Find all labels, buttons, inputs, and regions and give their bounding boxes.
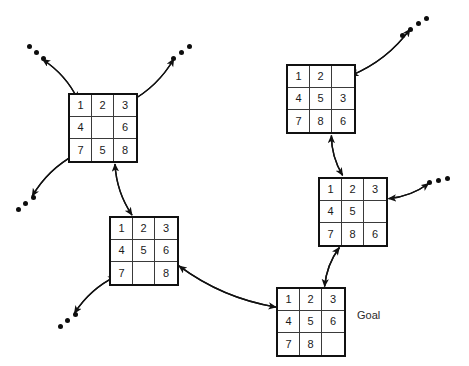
puzzle-cell: 4 xyxy=(70,117,92,139)
puzzle-cell: 6 xyxy=(332,110,354,132)
puzzle-cell: 8 xyxy=(342,223,364,245)
ellipsis-top-left-dot xyxy=(34,50,39,55)
edge-goal-to-middle-left xyxy=(179,266,276,307)
puzzle-cell: 8 xyxy=(155,262,177,284)
diagram-canvas: 1234675812345678124537861234578612345678… xyxy=(0,0,469,366)
puzzle-cell xyxy=(322,333,344,355)
puzzle-cell: 3 xyxy=(155,218,177,240)
puzzle-cell: 5 xyxy=(310,88,332,110)
ellipsis-top-left-right-dot xyxy=(171,56,176,61)
puzzle-cell: 1 xyxy=(111,218,133,240)
edge-middle-right-to-goal xyxy=(325,248,340,287)
puzzle-cell: 1 xyxy=(288,66,310,88)
puzzle-grid-top-left: 12346758 xyxy=(68,93,138,163)
puzzle-cell: 5 xyxy=(300,311,322,333)
ellipsis-top-left-dot xyxy=(41,56,46,61)
puzzle-cell: 2 xyxy=(300,289,322,311)
puzzle-cell: 1 xyxy=(278,289,300,311)
ellipsis-top-right-dot xyxy=(416,21,421,26)
puzzle-cell: 7 xyxy=(278,333,300,355)
ellipsis-right-dot xyxy=(427,180,432,185)
ellipsis-mid-left-dot xyxy=(31,195,36,200)
puzzle-cell: 7 xyxy=(320,223,342,245)
puzzle-cell: 7 xyxy=(111,262,133,284)
edge-middle-left-to-top-left xyxy=(115,164,132,215)
ellipsis-top-left-right-dot xyxy=(187,44,192,49)
puzzle-cell: 3 xyxy=(332,88,354,110)
puzzle-cell: 5 xyxy=(342,201,364,223)
puzzle-grid-middle-right: 12345786 xyxy=(318,177,388,247)
ellipsis-top-right-dot xyxy=(424,16,429,21)
ellipsis-mid-left-dot xyxy=(16,207,21,212)
puzzle-cell: 6 xyxy=(364,223,386,245)
puzzle-cell: 1 xyxy=(70,95,92,117)
puzzle-cell: 3 xyxy=(322,289,344,311)
puzzle-cell xyxy=(332,66,354,88)
ellipsis-right-dot xyxy=(445,176,450,181)
puzzle-cell xyxy=(364,201,386,223)
edge-ellipsis-to-middle-right xyxy=(389,184,429,199)
puzzle-cell: 3 xyxy=(364,179,386,201)
puzzle-cell: 5 xyxy=(133,240,155,262)
edge-middle-right-to-ellipsis xyxy=(389,184,429,199)
ellipsis-top-right-dot xyxy=(408,27,413,32)
puzzle-cell: 4 xyxy=(278,311,300,333)
puzzle-cell: 5 xyxy=(92,139,114,161)
ellipsis-mid-left-dot xyxy=(23,201,28,206)
ellipsis-right-dot xyxy=(436,178,441,183)
ellipsis-bottom-left-dot xyxy=(58,324,63,329)
goal-label: Goal xyxy=(357,309,380,321)
puzzle-cell: 3 xyxy=(114,95,136,117)
puzzle-cell: 2 xyxy=(342,179,364,201)
ellipsis-bottom-left-dot xyxy=(65,318,70,323)
puzzle-cell: 8 xyxy=(310,110,332,132)
puzzle-cell: 7 xyxy=(70,139,92,161)
edges-layer xyxy=(0,0,469,366)
puzzle-cell: 7 xyxy=(288,110,310,132)
puzzle-cell: 4 xyxy=(288,88,310,110)
edge-top-left-to-middle-left xyxy=(115,164,132,215)
ellipsis-bottom-left-dot xyxy=(73,312,78,317)
puzzle-cell xyxy=(92,117,114,139)
puzzle-cell: 1 xyxy=(320,179,342,201)
edge-top-right-to-middle-right xyxy=(331,136,342,176)
puzzle-cell xyxy=(133,262,155,284)
puzzle-cell: 4 xyxy=(111,240,133,262)
ellipsis-top-left-dot xyxy=(27,44,32,49)
puzzle-grid-goal: 12345678 xyxy=(276,287,346,357)
edge-middle-left-to-goal xyxy=(179,266,276,307)
ellipsis-top-left-right-dot xyxy=(179,50,184,55)
puzzle-cell: 6 xyxy=(322,311,344,333)
puzzle-cell: 8 xyxy=(300,333,322,355)
puzzle-cell: 8 xyxy=(114,139,136,161)
puzzle-grid-middle-left: 12345678 xyxy=(109,216,179,286)
puzzle-cell: 2 xyxy=(92,95,114,117)
puzzle-cell: 6 xyxy=(114,117,136,139)
edge-middle-right-to-top-right xyxy=(331,136,342,176)
puzzle-cell: 2 xyxy=(310,66,332,88)
edge-goal-to-middle-right xyxy=(325,248,340,287)
puzzle-cell: 4 xyxy=(320,201,342,223)
puzzle-grid-top-right: 12453786 xyxy=(286,64,356,134)
ellipsis-top-right-dot xyxy=(400,33,405,38)
puzzle-cell: 6 xyxy=(155,240,177,262)
puzzle-cell: 2 xyxy=(133,218,155,240)
